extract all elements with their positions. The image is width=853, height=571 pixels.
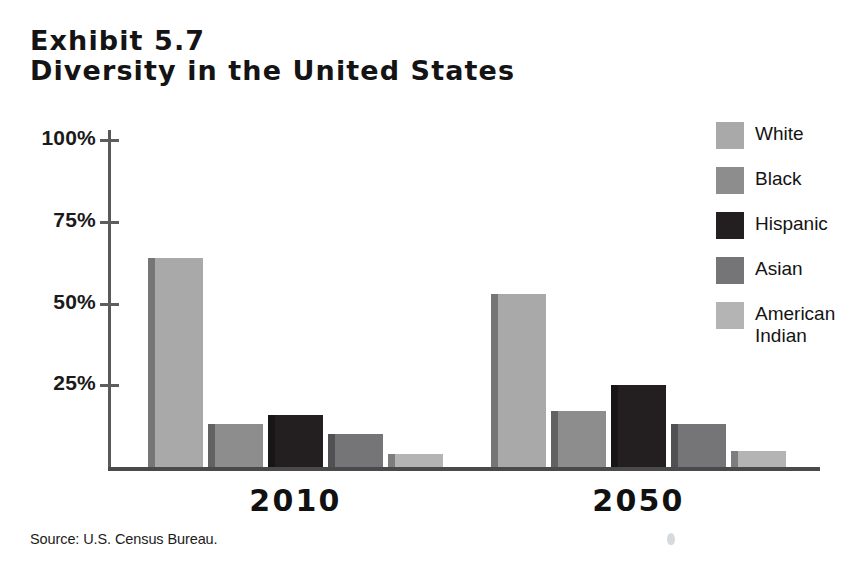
- y-axis-tick-label-wrap: 75%: [12, 208, 96, 232]
- bar-2050-white: [491, 294, 546, 467]
- bar-fill: [671, 424, 726, 467]
- y-axis-line: [108, 130, 111, 470]
- y-axis-tick-label: 100%: [20, 126, 96, 150]
- legend-label: Black: [755, 168, 801, 190]
- y-axis-tick-50: [100, 303, 119, 306]
- bar-2050-american-indian: [731, 451, 786, 467]
- bar-left-shadow: [731, 451, 738, 467]
- bar-fill: [208, 424, 263, 467]
- bar-2010-white: [148, 258, 203, 467]
- y-axis-tick-label-wrap: 100%: [12, 126, 96, 150]
- page-smudge-mark: [667, 533, 675, 545]
- bar-fill: [551, 411, 606, 467]
- bar-fill: [611, 385, 666, 467]
- y-axis-tick-label-wrap: 50%: [12, 290, 96, 314]
- y-axis-tick-label: 25%: [20, 371, 96, 395]
- bar-fill: [148, 258, 203, 467]
- bar-2010-asian: [328, 434, 383, 467]
- x-axis-line: [108, 467, 820, 471]
- legend-item-asian[interactable]: Asian: [716, 257, 851, 288]
- legend-label: Asian: [755, 258, 803, 280]
- y-axis-tick-100: [100, 139, 119, 142]
- bar-left-shadow: [148, 258, 155, 467]
- bar-2010-black: [208, 424, 263, 467]
- bar-left-shadow: [388, 454, 395, 467]
- legend-swatch: [716, 212, 744, 239]
- legend-swatch: [716, 122, 744, 149]
- bar-2010-american-indian: [388, 454, 443, 467]
- bar-fill: [731, 451, 786, 467]
- y-axis-tick-label: 50%: [20, 290, 96, 314]
- bar-2050-black: [551, 411, 606, 467]
- bar-left-shadow: [328, 434, 335, 467]
- bar-fill: [491, 294, 546, 467]
- legend-item-black[interactable]: Black: [716, 167, 851, 198]
- y-axis-tick-25: [100, 384, 119, 387]
- x-axis-label-2010: 2010: [148, 483, 443, 518]
- bar-2010-hispanic: [268, 415, 323, 467]
- bar-fill: [328, 434, 383, 467]
- legend-label: American Indian: [755, 303, 835, 347]
- legend-item-white[interactable]: White: [716, 122, 851, 153]
- bar-2050-asian: [671, 424, 726, 467]
- bar-2050-hispanic: [611, 385, 666, 467]
- legend-item-hispanic[interactable]: Hispanic: [716, 212, 851, 243]
- bar-left-shadow: [268, 415, 275, 467]
- bar-left-shadow: [611, 385, 618, 467]
- chart-legend: WhiteBlackHispanicAsianAmerican Indian: [716, 122, 851, 361]
- y-axis-tick-75: [100, 221, 119, 224]
- bar-left-shadow: [671, 424, 678, 467]
- source-note: Source: U.S. Census Bureau.: [30, 531, 218, 547]
- bar-left-shadow: [491, 294, 498, 467]
- y-axis-tick-label-wrap: 25%: [12, 371, 96, 395]
- legend-swatch: [716, 167, 744, 194]
- legend-label: Hispanic: [755, 213, 828, 235]
- legend-swatch: [716, 302, 744, 329]
- bar-fill: [268, 415, 323, 467]
- legend-item-american-indian[interactable]: American Indian: [716, 302, 851, 347]
- bar-left-shadow: [551, 411, 558, 467]
- legend-swatch: [716, 257, 744, 284]
- legend-label: White: [755, 123, 804, 145]
- x-axis-label-2050: 2050: [491, 483, 786, 518]
- bar-left-shadow: [208, 424, 215, 467]
- y-axis-tick-label: 75%: [20, 208, 96, 232]
- bar-fill: [388, 454, 443, 467]
